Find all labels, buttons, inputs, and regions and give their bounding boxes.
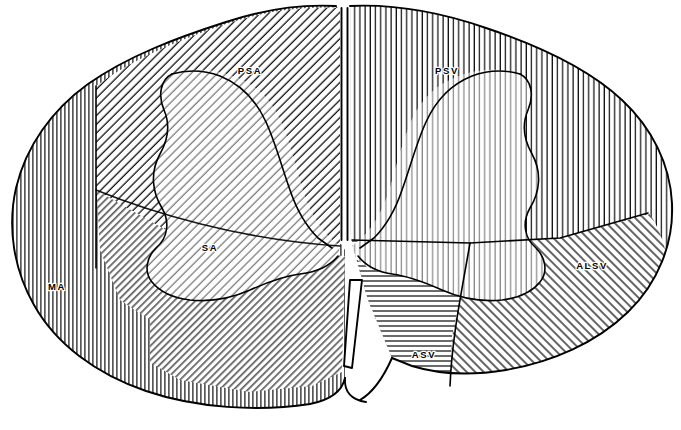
- region-label-psv: PSV: [435, 65, 459, 76]
- anatomical-figure: MA PSA SA PSV ALSV ASV: [0, 0, 681, 430]
- region-label-asv: ASV: [412, 349, 436, 360]
- region-label-sa: SA: [202, 242, 218, 253]
- region-label-ma: MA: [48, 281, 66, 292]
- region-label-alsv: ALSV: [576, 260, 608, 271]
- cross-section-illustration: MA PSA SA PSV ALSV ASV: [0, 0, 681, 430]
- region-label-psa: PSA: [238, 65, 262, 76]
